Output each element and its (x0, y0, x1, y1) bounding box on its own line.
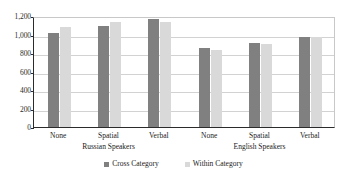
gridline (34, 92, 334, 93)
plot-area (33, 17, 335, 128)
y-axis-tick-label: 600 (1, 69, 31, 77)
bar (48, 33, 59, 127)
x-axis-category-label: Spatial (235, 131, 285, 140)
x-axis-category-label: None (184, 131, 234, 140)
x-axis-group-label: Russian Speakers (49, 142, 169, 151)
gridline (34, 111, 334, 112)
legend-label: Within Category (193, 160, 243, 168)
bar (160, 22, 171, 127)
bar (98, 26, 109, 127)
y-axis-tick-label: 0 (1, 124, 31, 132)
gridline (34, 37, 334, 38)
bar (60, 27, 71, 127)
y-axis-tick-label: 1,200 (1, 13, 31, 21)
bar-chart: 1,2001,0008006004002000 NoneSpatialVerba… (0, 0, 347, 179)
chart-legend: Cross CategoryWithin Category (0, 160, 347, 168)
bar (110, 22, 121, 127)
x-axis-category-label: Verbal (285, 131, 335, 140)
legend-swatch-icon (104, 162, 109, 167)
bar (211, 50, 222, 127)
legend-label: Cross Category (112, 160, 158, 168)
gridline (34, 74, 334, 75)
y-axis-tick-mark (31, 128, 34, 129)
x-axis-category-label: Verbal (134, 131, 184, 140)
bar (299, 37, 310, 127)
legend-item[interactable]: Within Category (185, 160, 243, 168)
bar (199, 48, 210, 127)
x-axis-category-label: Spatial (84, 131, 134, 140)
legend-swatch-icon (185, 162, 190, 167)
bar (311, 37, 322, 127)
bar (148, 19, 159, 127)
bar (249, 43, 260, 127)
x-axis-group-label: English Speakers (200, 142, 320, 151)
y-axis-tick-label: 400 (1, 87, 31, 95)
x-axis-category-label: None (33, 131, 83, 140)
y-axis-tick-label: 1,000 (1, 32, 31, 40)
gridline (34, 55, 334, 56)
bar (261, 44, 272, 127)
y-axis: 1,2001,0008006004002000 (0, 17, 31, 128)
legend-item[interactable]: Cross Category (104, 160, 158, 168)
y-axis-tick-label: 200 (1, 106, 31, 114)
y-axis-tick-label: 800 (1, 50, 31, 58)
